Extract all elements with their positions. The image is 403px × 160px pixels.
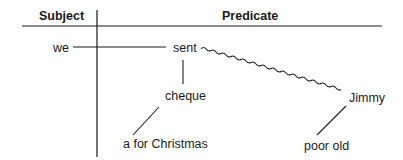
indirect-object-wavy-connector	[201, 48, 341, 91]
word-direct-object-modifiers: a for Christmas	[123, 138, 208, 151]
subject-header: Subject	[39, 10, 84, 23]
word-direct-object: cheque	[165, 90, 206, 103]
indirect-object-modifier-connector	[317, 106, 346, 135]
predicate-header: Predicate	[222, 10, 278, 23]
diagram-lines	[0, 0, 403, 160]
object-modifier-connector	[133, 107, 159, 135]
word-verb: sent	[173, 42, 197, 55]
word-subject: we	[53, 42, 69, 55]
word-indirect-object-modifiers: poor old	[304, 140, 349, 153]
sentence-diagram: Subject Predicate we sent cheque a for C…	[0, 0, 403, 160]
word-indirect-object: Jimmy	[349, 92, 385, 105]
